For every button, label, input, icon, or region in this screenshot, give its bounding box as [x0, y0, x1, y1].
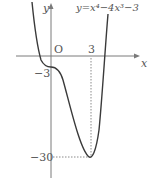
x-axis-arrow-icon [134, 54, 140, 59]
y-intercept-label: −3 [34, 67, 50, 80]
y-axis-arrow-icon [49, 3, 54, 9]
y-axis-label: y [42, 2, 50, 15]
x-axis-label: x [141, 57, 148, 70]
equation-label: y=x⁴−4x³−3 [75, 2, 139, 13]
function-graph: y x O 3 −3 −30 y=x⁴−4x³−3 [0, 0, 151, 183]
y-min-label: −30 [30, 151, 53, 164]
x-tick-3-label: 3 [88, 43, 95, 56]
origin-label: O [54, 43, 63, 56]
